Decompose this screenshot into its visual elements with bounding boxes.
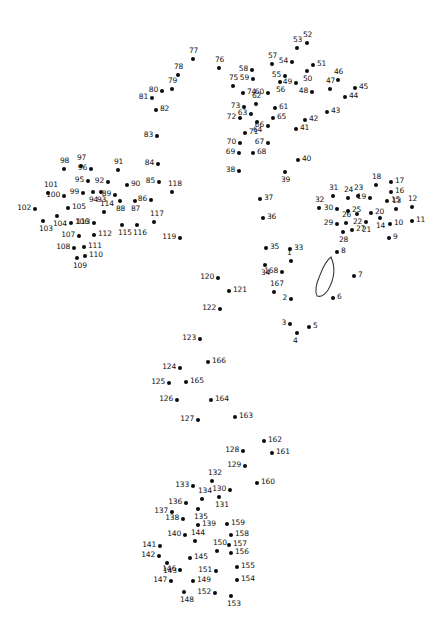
- dot-number-label: 27: [356, 225, 365, 233]
- dot-marker: [344, 221, 348, 225]
- dot-marker: [79, 164, 83, 168]
- dot-number-label: 133: [175, 481, 189, 489]
- dot-number-label: 105: [72, 203, 86, 211]
- dot-marker: [331, 194, 335, 198]
- dot-number-label: 17: [395, 177, 404, 185]
- dot-marker: [331, 296, 335, 300]
- dot-number-label: 102: [17, 204, 31, 212]
- dot-number-label: 159: [231, 519, 245, 527]
- dot-number-label: 67: [255, 138, 264, 146]
- dot-number-label: 20: [375, 208, 384, 216]
- dot-marker: [388, 222, 392, 226]
- dot-number-label: 140: [167, 530, 181, 538]
- dot-number-label: 166: [212, 357, 226, 365]
- dot-number-label: 109: [73, 262, 87, 270]
- dot-marker: [243, 131, 247, 135]
- dot-marker: [181, 517, 185, 521]
- dot-number-label: 103: [39, 225, 53, 233]
- dot-number-label: 156: [235, 548, 249, 556]
- dot-marker: [175, 398, 179, 402]
- dot-marker: [89, 167, 93, 171]
- dot-marker: [389, 190, 393, 194]
- dot-number-label: 6: [337, 293, 342, 301]
- dot-marker: [241, 449, 245, 453]
- dot-number-label: 44: [349, 92, 358, 100]
- dot-marker: [238, 116, 242, 120]
- dot-marker: [158, 544, 162, 548]
- dot-number-label: 2: [282, 294, 287, 302]
- dot-marker: [135, 223, 139, 227]
- dot-number-label: 160: [261, 478, 275, 486]
- dot-number-label: 52: [303, 31, 312, 39]
- dot-number-label: 86: [138, 195, 147, 203]
- dot-number-label: 5: [313, 322, 318, 330]
- dot-marker: [254, 102, 258, 106]
- dot-marker: [69, 221, 73, 225]
- dot-number-label: 4: [293, 337, 298, 345]
- dot-marker: [152, 220, 156, 224]
- dot-marker: [350, 228, 354, 232]
- dot-number-label: 50: [303, 75, 312, 83]
- dot-marker: [270, 451, 274, 455]
- dot-number-label: 158: [235, 530, 249, 538]
- dot-number-label: 48: [299, 87, 308, 95]
- dot-number-label: 77: [189, 47, 198, 55]
- dot-number-label: 16: [395, 187, 404, 195]
- dot-marker: [55, 214, 59, 218]
- dot-number-label: 74: [247, 88, 256, 96]
- dot-marker: [310, 90, 314, 94]
- dot-marker: [335, 222, 339, 226]
- dot-number-label: 39: [281, 176, 290, 184]
- dot-number-label: 125: [151, 378, 165, 386]
- dot-marker: [261, 216, 265, 220]
- dot-marker: [150, 96, 154, 100]
- dot-marker: [170, 87, 174, 91]
- dot-number-label: 146: [162, 565, 176, 573]
- dot-number-label: 38: [226, 166, 235, 174]
- dot-number-label: 85: [146, 177, 155, 185]
- dot-number-label: 122: [202, 304, 216, 312]
- dot-number-label: 61: [279, 103, 288, 111]
- dot-number-label: 129: [227, 461, 241, 469]
- dot-marker: [215, 549, 219, 553]
- dot-marker: [294, 127, 298, 131]
- dot-number-label: 94: [89, 196, 98, 204]
- dot-number-label: 163: [239, 412, 253, 420]
- dot-marker: [249, 112, 253, 116]
- dot-marker: [102, 210, 106, 214]
- dot-marker: [156, 162, 160, 166]
- dot-number-label: 149: [197, 576, 211, 584]
- dot-marker: [77, 234, 81, 238]
- dot-marker: [184, 501, 188, 505]
- dot-marker: [233, 415, 237, 419]
- dot-marker: [217, 495, 221, 499]
- dot-number-label: 31: [329, 184, 338, 192]
- dot-marker: [196, 507, 200, 511]
- dot-marker: [353, 86, 357, 90]
- dot-number-label: 116: [133, 229, 147, 237]
- dot-number-label: 79: [168, 77, 177, 85]
- dot-marker: [369, 211, 373, 215]
- dot-number-label: 117: [150, 210, 164, 218]
- dot-marker: [237, 151, 241, 155]
- dot-marker: [264, 246, 268, 250]
- dot-marker: [311, 63, 315, 67]
- dot-marker: [157, 554, 161, 558]
- dot-number-label: 99: [70, 188, 79, 196]
- dot-marker: [273, 106, 277, 110]
- dot-number-label: 161: [276, 448, 290, 456]
- dot-number-label: 127: [180, 415, 194, 423]
- dot-marker: [229, 551, 233, 555]
- dot-marker: [83, 254, 87, 258]
- dot-marker: [113, 193, 117, 197]
- dot-number-label: 147: [153, 576, 167, 584]
- dot-marker: [270, 62, 274, 66]
- dot-marker: [227, 289, 231, 293]
- dot-number-label: 97: [77, 154, 86, 162]
- dot-marker: [242, 105, 246, 109]
- dot-marker: [178, 236, 182, 240]
- dot-marker: [167, 381, 171, 385]
- dot-number-label: 57: [268, 52, 277, 60]
- dot-number-label: 112: [98, 230, 112, 238]
- dot-number-label: 113: [76, 218, 90, 226]
